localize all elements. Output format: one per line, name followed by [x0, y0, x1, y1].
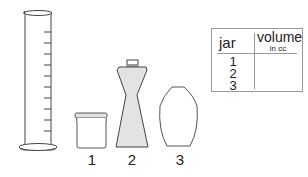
header-volume-unit: in cc [257, 44, 299, 53]
cylinder-ticks [44, 32, 51, 131]
header-jar: jar [219, 34, 236, 51]
header-volume-label: volume [257, 29, 302, 45]
label-vase-3: 3 [172, 151, 188, 168]
header-volume: volume in cc [257, 31, 299, 53]
bottle-2 [116, 60, 148, 147]
vase-3 [160, 87, 198, 146]
label-jar-1: 1 [84, 151, 100, 168]
row-jar-3: 3 [226, 78, 240, 93]
volume-table: jar volume in cc 1 2 3 [211, 28, 303, 92]
graduated-cylinder [19, 11, 57, 151]
jar-1 [75, 113, 107, 148]
table-column-divider [254, 33, 255, 89]
label-bottle-2: 2 [124, 151, 140, 168]
